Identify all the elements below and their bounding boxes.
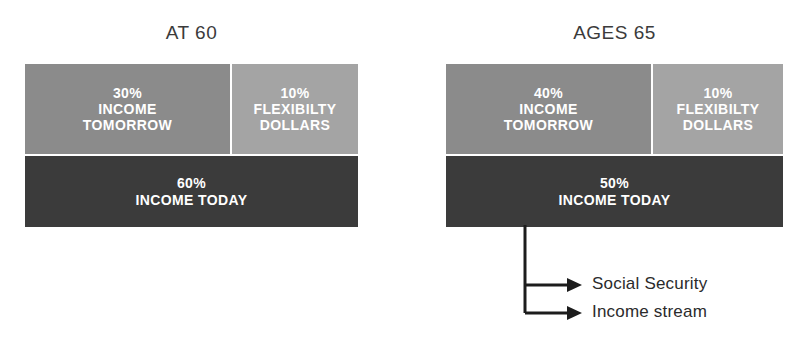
segment-label-line2: TOMORROW <box>504 117 593 133</box>
segment-income-today-ages-65: 50% INCOME TODAY <box>446 154 783 227</box>
segment-label-line1: FLEXIBILTY <box>253 101 336 117</box>
diagram-at-60: AT 60 30% INCOME TOMORROW 10% FLEXIBILTY… <box>25 22 358 227</box>
segment-income-today-at-60: 60% INCOME TODAY <box>25 154 358 227</box>
diagram-title-ages-65: AGES 65 <box>446 22 783 44</box>
segment-label-line1: INCOME <box>98 101 156 117</box>
stacked-bar-ages-65: 40% INCOME TOMORROW 10% FLEXIBILTY DOLLA… <box>446 64 783 227</box>
segment-percent: 10% <box>703 85 732 101</box>
segment-percent: 40% <box>534 85 563 101</box>
segment-label-line2: DOLLARS <box>683 117 753 133</box>
diagram-title-at-60: AT 60 <box>25 22 358 44</box>
diagram-ages-65: AGES 65 40% INCOME TOMORROW 10% FLEXIBIL… <box>446 22 783 227</box>
segment-label-line1: INCOME TODAY <box>135 192 247 208</box>
segment-percent: 60% <box>177 175 206 191</box>
callout-income-today-breakdown: Social Security Income stream <box>516 224 809 334</box>
top-row-at-60: 30% INCOME TOMORROW 10% FLEXIBILTY DOLLA… <box>25 64 358 154</box>
figure-canvas: AT 60 30% INCOME TOMORROW 10% FLEXIBILTY… <box>0 0 809 350</box>
segment-label-line1: FLEXIBILTY <box>676 101 759 117</box>
segment-label-line1: INCOME <box>519 101 577 117</box>
segment-flexibilty-dollars-at-60: 10% FLEXIBILTY DOLLARS <box>232 64 358 154</box>
segment-label-line2: DOLLARS <box>260 117 330 133</box>
segment-label-line1: INCOME TODAY <box>558 192 670 208</box>
segment-income-tomorrow-ages-65: 40% INCOME TOMORROW <box>446 64 653 154</box>
top-row-ages-65: 40% INCOME TOMORROW 10% FLEXIBILTY DOLLA… <box>446 64 783 154</box>
segment-label-line2: TOMORROW <box>83 117 172 133</box>
segment-percent: 50% <box>600 175 629 191</box>
stacked-bar-at-60: 30% INCOME TOMORROW 10% FLEXIBILTY DOLLA… <box>25 64 358 227</box>
callout-label-income-stream: Income stream <box>592 302 707 322</box>
segment-percent: 30% <box>113 85 142 101</box>
callout-label-social-security: Social Security <box>592 274 707 294</box>
segment-income-tomorrow-at-60: 30% INCOME TOMORROW <box>25 64 232 154</box>
segment-flexibilty-dollars-ages-65: 10% FLEXIBILTY DOLLARS <box>653 64 783 154</box>
segment-percent: 10% <box>280 85 309 101</box>
